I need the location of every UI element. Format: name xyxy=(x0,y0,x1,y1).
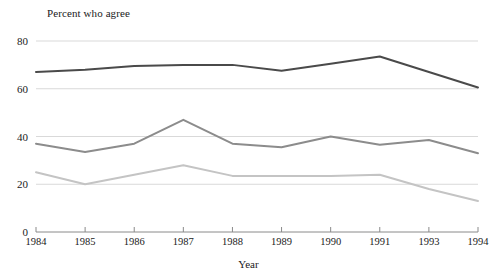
gridlines xyxy=(36,41,478,232)
x-axis-tick-label: 1985 xyxy=(62,236,108,247)
y-axis-tick-label: 80 xyxy=(2,35,28,47)
x-axis-tick-label: 1986 xyxy=(111,236,157,247)
x-axis-tick-label: 1994 xyxy=(455,236,493,247)
x-axis-tick-label: 1993 xyxy=(406,236,452,247)
x-axis-tick-label: 1987 xyxy=(160,236,206,247)
x-axis-title-text: Year xyxy=(238,258,258,270)
x-axis-ticks xyxy=(36,227,478,232)
data-line-series-top xyxy=(36,57,478,88)
x-axis-tick-label: 1988 xyxy=(209,236,255,247)
x-axis-tick-label: 1989 xyxy=(259,236,305,247)
y-axis-tick-label: 60 xyxy=(2,83,28,95)
y-axis-tick-label: 20 xyxy=(2,178,28,190)
y-axis-tick-label: 40 xyxy=(2,131,28,143)
x-axis-tick-label: 1984 xyxy=(13,236,59,247)
data-line-series-bottom xyxy=(36,165,478,201)
x-axis-tick-label: 1991 xyxy=(357,236,403,247)
x-axis-tick-label: 1990 xyxy=(308,236,354,247)
data-series-group xyxy=(36,57,478,201)
x-axis-title: Year xyxy=(0,258,485,270)
